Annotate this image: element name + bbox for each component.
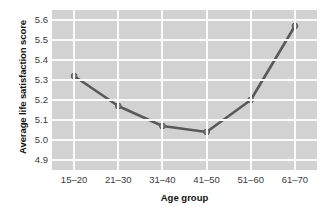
series-line bbox=[52, 10, 317, 170]
gridline-vertical bbox=[73, 10, 75, 170]
y-tick-label: 5.2 bbox=[18, 95, 48, 105]
gridline-horizontal bbox=[52, 99, 317, 101]
gridline-vertical bbox=[117, 10, 119, 170]
gridline-horizontal bbox=[52, 119, 317, 121]
y-tick-label: 5.6 bbox=[18, 15, 48, 25]
gridline-horizontal bbox=[52, 19, 317, 21]
gridline-horizontal bbox=[52, 159, 317, 161]
y-tick-label: 5.5 bbox=[18, 35, 48, 45]
y-tick-label: 4.9 bbox=[18, 155, 48, 165]
gridline-horizontal bbox=[52, 39, 317, 41]
plot-area bbox=[52, 10, 317, 170]
y-tick-label: 5.4 bbox=[18, 55, 48, 65]
y-tick-label: 5.1 bbox=[18, 115, 48, 125]
gridline-vertical bbox=[250, 10, 252, 170]
gridline-vertical bbox=[294, 10, 296, 170]
x-axis-tick-labels: 15–2021–3031–4041–5051–6061–70 bbox=[52, 174, 317, 188]
x-axis-title: Age group bbox=[52, 192, 317, 204]
x-tick-label: 61–70 bbox=[265, 174, 325, 186]
y-axis-tick-labels: 5.65.55.45.35.25.15.04.9 bbox=[18, 10, 48, 170]
y-tick-label: 5.0 bbox=[18, 135, 48, 145]
gridline-vertical bbox=[161, 10, 163, 170]
y-tick-label: 5.3 bbox=[18, 75, 48, 85]
line-chart: Average life satisfaction score 5.65.55.… bbox=[0, 0, 330, 213]
gridline-horizontal bbox=[52, 79, 317, 81]
gridline-vertical bbox=[206, 10, 208, 170]
gridline-horizontal bbox=[52, 139, 317, 141]
gridline-horizontal bbox=[52, 59, 317, 61]
